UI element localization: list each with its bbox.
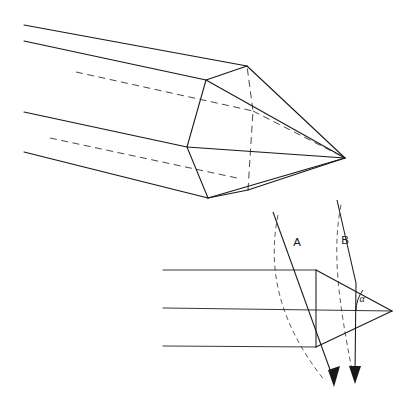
ray-b-refracted-line xyxy=(355,283,356,375)
shaft-bottom-edge xyxy=(24,152,208,198)
facet-edge-upper-left xyxy=(206,80,345,158)
ray-a-line xyxy=(273,212,333,378)
facet-edge-top xyxy=(247,66,345,158)
facet-edge-bottom-left xyxy=(208,158,345,198)
pencil-geometry-figure: A B α xyxy=(0,0,409,401)
ray-a xyxy=(273,212,340,387)
body-axis-line xyxy=(163,308,392,311)
figure-root: A B α xyxy=(0,0,409,401)
cone-lower-surface xyxy=(316,311,392,347)
facet-edge-left xyxy=(187,147,345,158)
facet-edge-bottom-right xyxy=(248,158,345,190)
shaft-top-edge xyxy=(24,25,247,66)
isometric-pencil-view xyxy=(24,25,345,198)
ray-a-label: A xyxy=(293,236,301,248)
body-bottom-line xyxy=(163,346,316,347)
ray-b-label: B xyxy=(341,234,349,246)
shaft-hidden-lower-edge xyxy=(50,138,237,178)
taper-facets xyxy=(187,66,345,198)
shaft-hidden-edges xyxy=(50,72,253,178)
facet-edge-hidden-right xyxy=(253,111,345,158)
hexagon-hidden-right-edge xyxy=(247,66,253,190)
wavefront-curves xyxy=(274,205,353,381)
hexagon-cross-section xyxy=(187,66,253,198)
shaft-upper-front-edge xyxy=(24,41,206,80)
profile-body xyxy=(163,270,392,347)
ray-b-arrowhead xyxy=(349,366,361,384)
hexagon-lower-right-edge xyxy=(208,190,248,198)
shaft-visible-edges xyxy=(24,25,247,198)
angle-alpha-label: α xyxy=(359,293,365,304)
shaft-lower-front-edge xyxy=(24,112,187,147)
wavefront-b-curve xyxy=(337,205,353,375)
axial-profile-view: A B α xyxy=(163,200,392,387)
